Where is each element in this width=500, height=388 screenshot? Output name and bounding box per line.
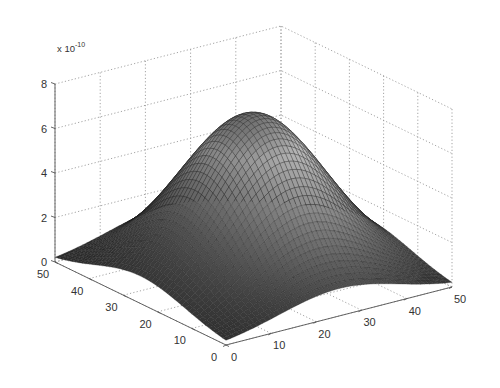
x-tick-label: 50: [454, 293, 466, 305]
y-tick-label: 30: [105, 301, 117, 313]
z-tick-label: 6: [41, 123, 47, 135]
x-tick-label: 0: [231, 351, 237, 363]
z-tick-label: 2: [41, 212, 47, 224]
y-tick-label: 10: [174, 334, 186, 346]
z-tick-label: 8: [41, 78, 47, 90]
x-tick-label: 10: [273, 339, 285, 351]
x-tick-label: 20: [318, 328, 330, 340]
y-tick-label: 0: [211, 351, 217, 363]
z-tick-label: 4: [41, 167, 47, 179]
surface-plot: 010203040500102030405002468 x 10-10: [0, 0, 500, 388]
z-multiplier-label: x 10-10: [57, 41, 85, 54]
y-tick-label: 40: [71, 285, 83, 297]
x-tick-label: 30: [363, 316, 375, 328]
x-tick-label: 40: [409, 305, 421, 317]
y-tick-label: 20: [139, 318, 151, 330]
y-tick-label: 50: [37, 268, 49, 280]
z-tick-label: 0: [41, 256, 47, 268]
